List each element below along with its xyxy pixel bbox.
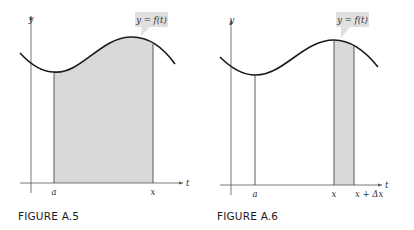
figure-a6: y = f(t) y t a x x + Δx	[220, 12, 389, 199]
tick-label-x: x	[151, 187, 156, 197]
figure-caption-a6: FIGURE A.6	[217, 210, 278, 222]
t-axis-label: t	[385, 180, 389, 190]
t-axis-label: t	[186, 178, 190, 188]
curve-label: y = f(t)	[135, 15, 167, 25]
figure-a5: y = f(t) y t a x	[20, 12, 190, 197]
figures-canvas: y = f(t) y t a x y = f(t) y t a x x + Δx	[0, 0, 414, 230]
shaded-strip	[334, 40, 354, 185]
tick-label-x-plus-dx: x + Δx	[355, 189, 383, 199]
curve-label-pointer	[141, 27, 150, 36]
tick-label-a: a	[51, 187, 56, 197]
shaded-area	[54, 37, 153, 183]
curve-label-pointer	[341, 27, 350, 38]
figure-caption-a5: FIGURE A.5	[18, 210, 79, 222]
y-axis-label: y	[28, 14, 34, 24]
y-axis-label: y	[229, 15, 235, 25]
curve-label: y = f(t)	[336, 15, 368, 25]
tick-label-a: a	[252, 189, 257, 199]
tick-label-x: x	[332, 189, 337, 199]
